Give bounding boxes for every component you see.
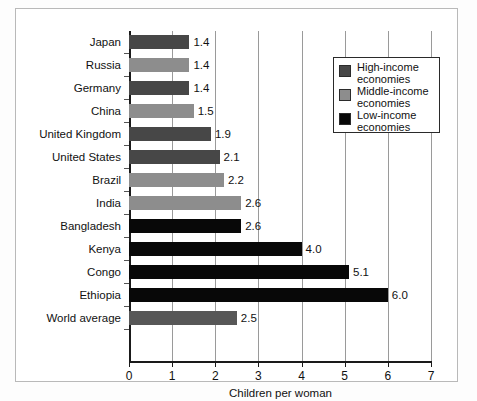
bar [129,311,237,325]
bar-value-label: 2.6 [245,196,261,210]
legend-label: Middle-income economies [357,86,443,109]
bar-value-label: 1.4 [193,58,209,72]
x-axis-tick-mark [345,361,346,367]
category-label: India [0,196,121,210]
bar [129,219,241,233]
y-axis-tick [124,99,129,100]
bar-row: Brazil2.2 [129,173,431,196]
legend-label: High-income economies [357,62,443,85]
legend-swatch-high-income [339,65,351,77]
bar [129,288,388,302]
x-axis-tick-label: 2 [200,369,230,383]
bar-row: Japan1.4 [129,35,431,58]
bar [129,104,194,118]
bar [129,173,224,187]
bar-row: India2.6 [129,196,431,219]
x-axis-tick-label: 4 [287,369,317,383]
x-axis-tick-label: 0 [114,369,144,383]
bar-row: Kenya4.0 [129,242,431,265]
x-axis-tick-label: 7 [416,369,446,383]
y-axis-tick [124,260,129,261]
figure: Japan1.4Russia1.4Germany1.4China1.5Unite… [0,0,477,401]
category-label: Germany [0,81,121,95]
bar [129,196,241,210]
category-label: Ethiopia [0,288,121,302]
bar-row: Ethiopia6.0 [129,288,431,311]
x-axis-tick-label: 5 [330,369,360,383]
x-axis-tick-mark [172,361,173,367]
legend-swatch-low-income [339,113,351,125]
y-axis-tick [124,168,129,169]
y-axis-tick [124,237,129,238]
legend-item[interactable]: High-income economies [339,63,435,86]
category-label: Kenya [0,242,121,256]
bar [129,265,349,279]
category-label: Congo [0,265,121,279]
bar-value-label: 5.1 [353,265,369,279]
x-axis-tick-mark [258,361,259,367]
chart-legend: High-income economies Middle-income econ… [333,57,440,133]
x-axis-tick-label: 6 [373,369,403,383]
category-label: China [0,104,121,118]
bar-value-label: 2.2 [228,173,244,187]
bar [129,150,220,164]
chart-frame: Japan1.4Russia1.4Germany1.4China1.5Unite… [15,8,458,382]
category-label: Brazil [0,173,121,187]
legend-label: Low-income economies [357,110,443,133]
category-label: United States [0,150,121,164]
bar-value-label: 1.5 [198,104,214,118]
bar-row: Congo5.1 [129,265,431,288]
x-axis-tick-label: 3 [243,369,273,383]
category-label: World average [0,311,121,325]
bar-row: Bangladesh2.6 [129,219,431,242]
bar-value-label: 4.0 [306,242,322,256]
y-axis-tick [124,191,129,192]
x-axis-tick-mark [215,361,216,367]
y-axis-tick [124,76,129,77]
legend-item[interactable]: Low-income economies [339,111,435,134]
bar-value-label: 1.4 [193,35,209,49]
category-label: Russia [0,58,121,72]
x-axis-tick-label: 1 [157,369,187,383]
y-axis-tick [124,122,129,123]
category-label: Bangladesh [0,219,121,233]
x-axis-tick-mark [388,361,389,367]
bar-value-label: 2.1 [224,150,240,164]
bar [129,242,302,256]
bar-row: United States2.1 [129,150,431,173]
bar [129,35,189,49]
bar-value-label: 1.9 [215,127,231,141]
category-label: United Kingdom [0,127,121,141]
x-axis-tick-mark [129,361,130,367]
x-axis-label: Children per woman [129,387,432,399]
bar [129,81,189,95]
bar-row: World average2.5 [129,311,431,334]
bar-value-label: 2.6 [245,219,261,233]
y-axis-tick [124,283,129,284]
bar [129,58,189,72]
bar-value-label: 2.5 [241,311,257,325]
legend-item[interactable]: Middle-income economies [339,87,435,110]
x-axis-tick-mark [302,361,303,367]
x-axis-tick-mark [431,361,432,367]
bar-value-label: 1.4 [193,81,209,95]
bar-value-label: 6.0 [392,288,408,302]
y-axis-tick [124,53,129,54]
x-axis-line [129,361,432,363]
y-axis-tick [124,214,129,215]
y-axis-tick [124,306,129,307]
y-axis-tick [124,329,129,330]
bar [129,127,211,141]
category-label: Japan [0,35,121,49]
y-axis-tick [124,145,129,146]
legend-swatch-middle-income [339,89,351,101]
